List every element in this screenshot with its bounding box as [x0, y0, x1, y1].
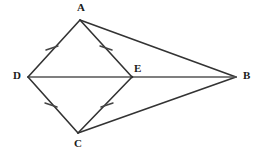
- tick-DA: [46, 46, 58, 50]
- vertex-label-E: E: [134, 63, 141, 74]
- vertex-label-D: D: [13, 70, 21, 81]
- vertex-label-B: B: [243, 70, 250, 81]
- segment-CB: [78, 77, 236, 133]
- vertex-point-E: [131, 76, 134, 79]
- segment-DA: [28, 20, 80, 77]
- geometry-figure: A B C D E: [0, 0, 263, 155]
- segment-AB: [80, 20, 236, 77]
- vertex-label-A: A: [77, 2, 85, 13]
- geometry-canvas: [0, 0, 263, 155]
- vertex-label-C: C: [74, 138, 82, 149]
